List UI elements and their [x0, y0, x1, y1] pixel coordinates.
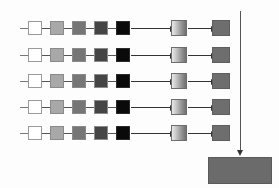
chain-box-step-5 [116, 48, 130, 62]
gradient-transform-box [171, 47, 187, 63]
long-arrow-line [131, 81, 170, 82]
chain-connector [108, 81, 116, 82]
chain-box-step-1 [28, 21, 42, 35]
chain-connector [42, 55, 50, 56]
chain-connector [42, 81, 50, 82]
chain-box-step-3 [72, 100, 86, 114]
chain-connector [42, 28, 50, 29]
output-arrow-line [188, 107, 211, 108]
chain-box-step-1 [28, 126, 42, 140]
chain-box-step-1 [28, 100, 42, 114]
collector-arrow-head-icon [237, 150, 243, 156]
chain-box-step-2 [50, 21, 64, 35]
row-output-box [212, 73, 230, 89]
gradient-transform-box [171, 125, 187, 141]
chain-connector [108, 28, 116, 29]
chain-box-step-2 [50, 126, 64, 140]
chain-connector [108, 133, 116, 134]
chain-box-step-5 [116, 100, 130, 114]
chain-box-step-2 [50, 74, 64, 88]
chain-connector [64, 28, 72, 29]
output-arrow-line [188, 55, 211, 56]
row-input-stub [20, 133, 28, 134]
chain-box-step-5 [116, 74, 130, 88]
row-input-stub [20, 55, 28, 56]
long-arrow-line [131, 107, 170, 108]
aggregate-result-box [208, 157, 272, 184]
gradient-transform-box [171, 99, 187, 115]
row-input-stub [20, 107, 28, 108]
gradient-transform-box [171, 73, 187, 89]
chain-box-step-4 [94, 126, 108, 140]
gradient-transform-box [171, 20, 187, 36]
long-arrow-line [131, 28, 170, 29]
chain-connector [108, 55, 116, 56]
long-arrow-line [131, 55, 170, 56]
row-output-box [212, 47, 230, 63]
chain-box-step-3 [72, 21, 86, 35]
chain-connector [42, 107, 50, 108]
row-output-box [212, 125, 230, 141]
chain-box-step-4 [94, 21, 108, 35]
chain-connector [42, 133, 50, 134]
chain-connector [64, 55, 72, 56]
output-arrow-line [188, 28, 211, 29]
chain-connector [86, 81, 94, 82]
chain-box-step-4 [94, 48, 108, 62]
chain-connector [64, 81, 72, 82]
output-arrow-line [188, 81, 211, 82]
chain-box-step-2 [50, 48, 64, 62]
collector-vertical-line [240, 11, 241, 150]
pipeline-diagram [0, 0, 279, 188]
long-arrow-line [131, 133, 170, 134]
chain-connector [86, 55, 94, 56]
chain-box-step-3 [72, 126, 86, 140]
chain-connector [86, 28, 94, 29]
chain-connector [108, 107, 116, 108]
chain-connector [64, 107, 72, 108]
chain-connector [86, 107, 94, 108]
chain-box-step-1 [28, 48, 42, 62]
chain-box-step-3 [72, 74, 86, 88]
row-input-stub [20, 28, 28, 29]
chain-box-step-5 [116, 21, 130, 35]
chain-connector [64, 133, 72, 134]
row-output-box [212, 20, 230, 36]
chain-box-step-4 [94, 74, 108, 88]
chain-connector [86, 133, 94, 134]
chain-box-step-2 [50, 100, 64, 114]
row-output-box [212, 99, 230, 115]
chain-box-step-5 [116, 126, 130, 140]
output-arrow-line [188, 133, 211, 134]
row-input-stub [20, 81, 28, 82]
chain-box-step-3 [72, 48, 86, 62]
chain-box-step-4 [94, 100, 108, 114]
chain-box-step-1 [28, 74, 42, 88]
